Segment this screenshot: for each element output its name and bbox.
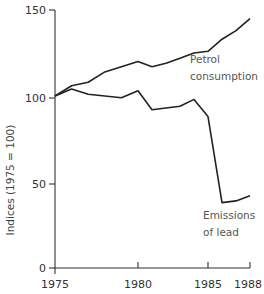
annotation-petrol-line2: consumption: [190, 70, 258, 82]
annotation-lead-line1: Emissions: [203, 209, 255, 221]
x-ticks: 1975 1980 1985 1988: [41, 262, 262, 291]
x-tick-1980: 1980: [124, 278, 152, 291]
y-tick-150: 150: [25, 4, 46, 17]
y-tick-50: 50: [32, 178, 46, 191]
y-tick-0: 0: [39, 262, 46, 275]
annotation-lead-line2: of lead: [203, 226, 239, 238]
y-tick-100: 100: [25, 92, 46, 105]
series-emissions-of-lead: [55, 89, 250, 203]
line-chart: Indices (1975 = 100) 150 100 50 0 1975 1…: [0, 0, 264, 294]
series-petrol-consumption: [55, 19, 250, 96]
x-tick-1988: 1988: [234, 278, 262, 291]
y-ticks: 150 100 50 0: [25, 4, 55, 275]
y-axis-label: Indices (1975 = 100): [4, 125, 16, 236]
x-tick-1985: 1985: [194, 278, 222, 291]
annotation-petrol-line1: Petrol: [190, 53, 220, 65]
x-tick-1975: 1975: [41, 278, 69, 291]
